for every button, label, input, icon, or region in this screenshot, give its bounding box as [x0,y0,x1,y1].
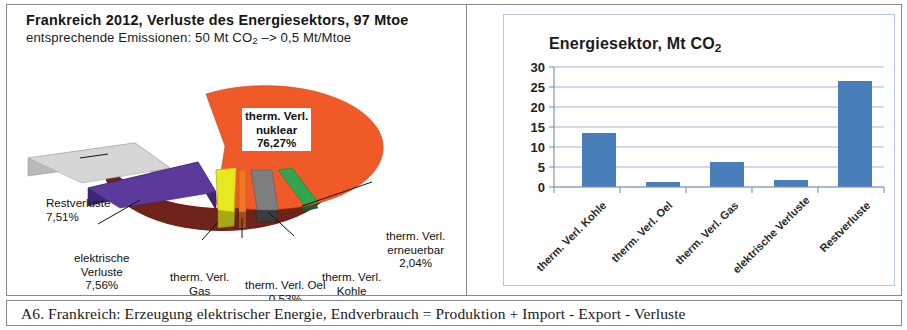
pie-label-nuklear-value: 76,27% [245,136,308,150]
pie-label-gas-line2: Gas [170,284,229,298]
bar-chart-panel: Energiesektor, Mt CO2 [503,14,895,286]
panel-divider [466,4,467,296]
left-panel-title: Frankreich 2012, Verluste des Energiesek… [26,12,409,28]
pie-label-elektrische-line2: Verluste [74,265,129,279]
figure-caption: A6. Frankreich: Erzeugung elektrischer E… [21,305,686,323]
subtitle-prefix: entsprechende Emissionen: 50 Mt CO [26,30,252,45]
pie-label-erneuerbar-line1: therm. Verl. [386,229,445,243]
pie-slice-oel [239,170,246,212]
subtitle-suffix: –> 0,5 Mt/Mtoe [258,30,352,45]
pie-label-erneuerbar-line2: erneuerbar [386,243,445,257]
bar-title-subscript: 2 [715,41,722,55]
pie-chart: therm. Verl. nuklear 76,27% Restverluste… [20,50,460,290]
pie-label-kohle-line2: Kohle [322,284,381,298]
bar-x-label-elektrische-verluste: elektrische Verluste [730,199,806,275]
pie-label-gas-line1: therm. Verl. [170,270,229,284]
pie-label-nuklear: therm. Verl. nuklear 76,27% [242,108,311,151]
pie-label-restverluste-line1: Restverluste [46,196,110,210]
bar-title-prefix: Energiesektor, Mt CO [549,35,715,52]
bar-x-label-restverluste: Restverluste [796,199,872,275]
pie-label-kohle-line1: therm. Verl. [322,270,381,284]
pie-label-erneuerbar: therm. Verl. erneuerbar 2,04% [386,229,445,270]
pie-label-nuklear-line1: therm. Verl. [245,109,308,123]
bar-chart-title: Energiesektor, Mt CO2 [549,35,722,55]
pie-label-elektrische: elektrische Verluste 7,56% [74,251,129,292]
left-panel-subtitle: entsprechende Emissionen: 50 Mt CO2 –> 0… [26,30,351,46]
pie-label-nuklear-line2: nuklear [245,123,308,137]
figure-page: Frankreich 2012, Verluste des Energiesek… [0,0,907,330]
bar-x-label-therm-verl-kohle: therm. Verl. Kohle [532,199,608,275]
pie-label-elektrische-value: 7,56% [74,278,129,292]
pie-label-erneuerbar-value: 2,04% [386,256,445,270]
figure-caption-box: A6. Frankreich: Erzeugung elektrischer E… [6,300,902,326]
pie-label-oel-line1: therm. Verl. Oel [245,278,326,292]
bar-x-axis-labels: therm. Verl. Kohle therm. Verl. Oel ther… [504,59,896,287]
pie-label-elektrische-line1: elektrische [74,251,129,265]
bar-x-label-therm-verl-gas: therm. Verl. Gas [664,199,740,275]
pie-label-restverluste: Restverluste 7,51% [46,196,110,223]
pie-slice-gas [216,168,236,212]
pie-label-restverluste-value: 7,51% [46,210,110,224]
bar-x-label-therm-verl-oel: therm. Verl. Oel [598,199,674,275]
